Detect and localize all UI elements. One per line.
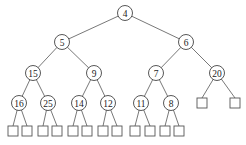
nil-leaf-square bbox=[230, 98, 240, 108]
node-label: 4 bbox=[123, 9, 128, 19]
tree-node-12: 12 bbox=[101, 96, 116, 111]
node-label: 7 bbox=[154, 69, 159, 79]
nil-leaf-square bbox=[112, 126, 122, 136]
nil-leaf-square bbox=[98, 126, 108, 136]
nil-leaf-square bbox=[145, 126, 155, 136]
node-label: 8 bbox=[169, 99, 174, 109]
tree-node-6: 6 bbox=[179, 35, 194, 50]
node-label: 15 bbox=[28, 69, 38, 79]
tree-node-7: 7 bbox=[149, 66, 164, 81]
tree-node-5: 5 bbox=[55, 35, 70, 50]
nil-leaf-square bbox=[174, 126, 184, 136]
node-label: 6 bbox=[184, 38, 189, 48]
tree-edge bbox=[125, 13, 186, 42]
node-label: 9 bbox=[92, 69, 97, 79]
nil-leaf-square bbox=[160, 126, 170, 136]
nil-leaf-square bbox=[38, 126, 48, 136]
node-label: 20 bbox=[212, 69, 222, 79]
nil-leaf-square bbox=[22, 126, 32, 136]
node-label: 16 bbox=[14, 99, 24, 109]
node-label: 11 bbox=[136, 99, 145, 109]
tree-node-16: 16 bbox=[12, 96, 27, 111]
tree-node-8: 8 bbox=[164, 96, 179, 111]
tree-node-25: 25 bbox=[41, 96, 56, 111]
nil-leaf-square bbox=[68, 126, 78, 136]
tree-node-15: 15 bbox=[26, 66, 41, 81]
node-label: 25 bbox=[43, 99, 53, 109]
tree-node-9: 9 bbox=[87, 66, 102, 81]
nil-leaf-square bbox=[130, 126, 140, 136]
tree-edge bbox=[62, 13, 125, 42]
nil-leaf-square bbox=[8, 126, 18, 136]
binary-tree-diagram: 45615972016251412118 bbox=[0, 0, 246, 145]
nil-leaf-square bbox=[52, 126, 62, 136]
node-label: 12 bbox=[103, 99, 113, 109]
node-label: 5 bbox=[60, 38, 65, 48]
tree-node-20: 20 bbox=[210, 66, 225, 81]
tree-node-11: 11 bbox=[134, 96, 149, 111]
nil-leaf-square bbox=[82, 126, 92, 136]
tree-node-14: 14 bbox=[72, 96, 87, 111]
nil-leaf-square bbox=[197, 98, 207, 108]
node-label: 14 bbox=[74, 99, 84, 109]
tree-node-4: 4 bbox=[118, 6, 133, 21]
